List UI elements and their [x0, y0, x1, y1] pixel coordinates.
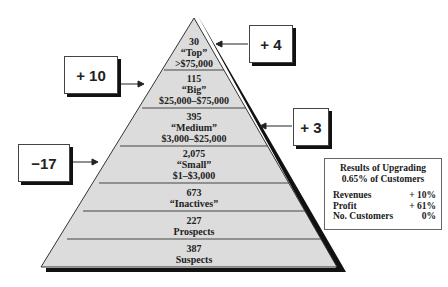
tier-suspects: 387 Suspects: [134, 243, 254, 265]
tier-medium: 395 “Medium” $3,000–$25,000: [134, 111, 254, 144]
tier-name: “Top”: [154, 47, 234, 58]
tier-top: 30 “Top” >$75,000: [154, 36, 234, 69]
tier-prospects: 227 Prospects: [134, 215, 254, 237]
tier-count: 30: [154, 36, 234, 47]
results-row-revenues: Revenues + 10%: [325, 190, 441, 201]
tier-inactives: 673 “Inactives”: [134, 187, 254, 209]
tier-name: “Inactives”: [134, 198, 254, 209]
tier-range: >$75,000: [154, 58, 234, 69]
tier-big: 115 “Big” $25,000–$75,000: [134, 73, 254, 106]
tier-small: 2,075 “Small” $1–$3,000: [134, 148, 254, 181]
tier-name: “Small”: [134, 159, 254, 170]
callout-value: −17: [31, 155, 56, 172]
tier-count: 395: [134, 111, 254, 122]
results-title: Results of Upgrading 0.65% of Customers: [325, 163, 441, 184]
tier-name: Prospects: [134, 226, 254, 237]
tier-count: 227: [134, 215, 254, 226]
results-row-profit: Profit + 61%: [325, 201, 441, 212]
tier-name: “Medium”: [134, 122, 254, 133]
results-box: Results of Upgrading 0.65% of Customers …: [324, 158, 442, 230]
callout-small-change: −17: [18, 144, 70, 182]
tier-name: “Big”: [134, 84, 254, 95]
callout-top-change: + 4: [249, 25, 293, 63]
tier-range: $25,000–$75,000: [134, 95, 254, 106]
tier-range: $1–$3,000: [134, 170, 254, 181]
callout-value: + 4: [260, 36, 281, 53]
tier-count: 673: [134, 187, 254, 198]
tier-name: Suspects: [134, 254, 254, 265]
callout-medium-change: + 3: [293, 108, 329, 146]
tier-count: 2,075: [134, 148, 254, 159]
results-row-customers: No. Customers 0%: [325, 211, 441, 222]
callout-value: + 3: [300, 119, 321, 136]
callout-big-change: + 10: [64, 56, 118, 94]
tier-range: $3,000–$25,000: [134, 133, 254, 144]
arrow-small-icon: [92, 159, 98, 165]
callout-value: + 10: [76, 67, 106, 84]
tier-count: 387: [134, 243, 254, 254]
tier-count: 115: [134, 73, 254, 84]
